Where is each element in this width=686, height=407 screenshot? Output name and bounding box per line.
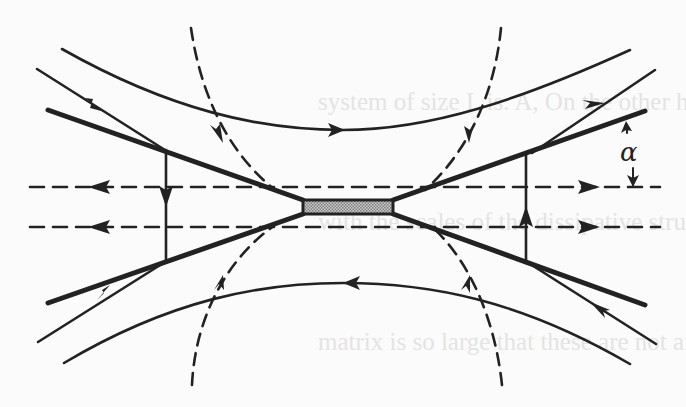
obstacle-box <box>303 200 393 214</box>
arrow-dashed-lower-right <box>461 275 470 293</box>
arrow-dashed-upper-right <box>464 124 474 143</box>
streamline-top <box>62 49 630 130</box>
arrow-dashed-upper-left <box>210 124 223 143</box>
streamline-bottom <box>64 283 630 364</box>
flow-diagram: α <box>0 0 686 407</box>
figure-canvas: system of size L is. A, On the other han… <box>0 0 686 407</box>
arrow-thin-ray-upper-left <box>85 98 105 112</box>
arrow-thin-ray-lower-right <box>590 302 610 318</box>
alpha-label: α <box>620 137 638 167</box>
